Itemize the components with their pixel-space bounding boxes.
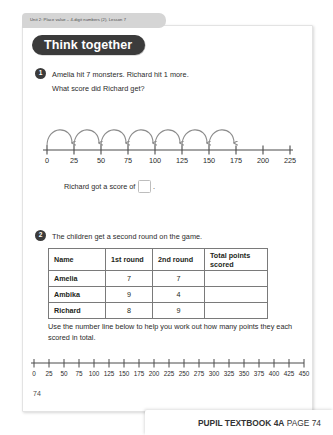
question-1-line-2: What score did Richard get? (52, 84, 145, 93)
footer-strip: PUPIL TEXTBOOK 4A PAGE 74 (145, 410, 333, 435)
page-sheet: Think together 1 Amelia hit 7 monsters. … (22, 25, 313, 412)
tick-label: 125 (176, 156, 188, 164)
tick-label: 150 (203, 156, 215, 164)
table-header-name: Name (49, 249, 106, 271)
tick-label: 175 (134, 370, 145, 377)
points-table-wrapper: Name 1st round 2nd round Total points sc… (48, 248, 267, 319)
cell-total[interactable] (205, 271, 268, 287)
tick-label: 50 (97, 156, 105, 164)
tick-label: 400 (269, 370, 280, 377)
tick-label: 75 (124, 156, 132, 164)
tick-label: 175 (230, 156, 242, 164)
cell-round2: 9 (153, 303, 205, 319)
footer-book-title: PUPIL TEXTBOOK 4A (198, 418, 284, 428)
cell-round1: 9 (106, 287, 153, 303)
number-line-bottom: 0 25 50 75 100 125 150 175 200 225 250 2… (23, 353, 312, 383)
page-number: 74 (33, 390, 41, 397)
tick-label: 25 (70, 156, 78, 164)
question-number-2: 2 (35, 230, 46, 241)
footer-text: PUPIL TEXTBOOK 4A PAGE 74 (198, 418, 321, 428)
answer-sentence-period: . (153, 182, 155, 191)
tick-label: 350 (239, 370, 250, 377)
table-row: Amelia 7 7 (49, 271, 268, 287)
number-line-bottom-labels: 0 25 50 75 100 125 150 175 200 225 250 2… (32, 370, 310, 377)
answer-input-box[interactable] (138, 180, 151, 193)
table-row: Ambika 9 4 (49, 287, 268, 303)
cell-total[interactable] (205, 303, 268, 319)
tick-label: 225 (164, 370, 175, 377)
tick-label: 275 (194, 370, 205, 377)
table-row: Richard 8 9 (49, 303, 268, 319)
tick-label: 425 (284, 370, 295, 377)
tick-label: 300 (209, 370, 220, 377)
table-header-total: Total points scored (205, 249, 268, 271)
think-together-banner: Think together (32, 35, 145, 55)
cell-name: Ambika (49, 287, 106, 303)
tick-label: 25 (45, 370, 53, 377)
table-header-row: Name 1st round 2nd round Total points sc… (49, 249, 268, 271)
number-line-bottom-svg: 0 25 50 75 100 125 150 175 200 225 250 2… (23, 353, 312, 383)
tick-label: 100 (89, 370, 100, 377)
tick-label: 100 (149, 156, 161, 164)
instruction-text: Use the number line below to help you wo… (48, 322, 298, 343)
cell-round2: 7 (153, 271, 205, 287)
tick-label: 225 (284, 156, 296, 164)
tick-label: 250 (179, 370, 190, 377)
cell-round1: 7 (106, 271, 153, 287)
tick-label: 0 (32, 370, 36, 377)
textbook-page-screenshot: Unit 2: Place value – 4-digit numbers (2… (0, 0, 333, 435)
unit-tab: Unit 2: Place value – 4-digit numbers (2… (22, 13, 166, 28)
tick-label: 50 (60, 370, 68, 377)
tick-label: 150 (119, 370, 130, 377)
cell-name: Richard (49, 303, 106, 319)
banner-title: Think together (44, 39, 132, 52)
question-1-line-1: Amelia hit 7 monsters. Richard hit 1 mor… (52, 70, 189, 79)
unit-tab-label: Unit 2: Place value – 4-digit numbers (2… (30, 17, 126, 22)
answer-sentence-text: Richard got a score of (64, 182, 135, 191)
tick-label: 200 (149, 370, 160, 377)
number-line-top-svg: 0 25 50 75 100 125 150 175 200 225 (35, 112, 301, 164)
tick-label: 375 (254, 370, 265, 377)
cell-total[interactable] (205, 287, 268, 303)
table-header-round2: 2nd round (153, 249, 205, 271)
cell-name: Amelia (49, 271, 106, 287)
footer-page-label: PAGE 74 (287, 418, 321, 428)
number-line-top: 0 25 50 75 100 125 150 175 200 225 (35, 112, 301, 164)
tick-label: 0 (45, 156, 49, 164)
tick-label: 75 (75, 370, 83, 377)
tick-label: 450 (299, 370, 310, 377)
question-2-line-1: The children get a second round on the g… (52, 232, 202, 241)
number-line-top-labels: 0 25 50 75 100 125 150 175 200 225 (45, 156, 296, 164)
number-line-top-hops (47, 130, 234, 146)
points-table: Name 1st round 2nd round Total points sc… (48, 248, 268, 319)
table-header-round1: 1st round (106, 249, 153, 271)
cell-round2: 4 (153, 287, 205, 303)
tick-label: 200 (257, 156, 269, 164)
answer-sentence: Richard got a score of . (64, 180, 155, 193)
tick-label: 125 (104, 370, 115, 377)
tick-label: 325 (224, 370, 235, 377)
question-number-1: 1 (35, 68, 46, 79)
cell-round1: 8 (106, 303, 153, 319)
